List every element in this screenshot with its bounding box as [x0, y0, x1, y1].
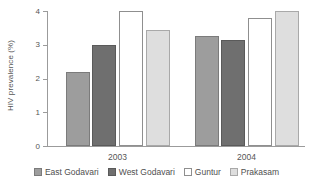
bar-west-godavari-2003 [92, 45, 116, 146]
bar-prakasam-2004 [275, 11, 299, 146]
y-axis-tick-label: 3 [36, 41, 40, 49]
legend-item-prakasam: Prakasam [230, 168, 279, 177]
y-axis-tick-label: 2 [36, 75, 40, 83]
hiv-prevalence-bar-chart: HIV prevalence (%) 01234 20032004 East G… [0, 0, 313, 191]
bar-east-godavari-2003 [66, 72, 90, 146]
x-axis-line [47, 146, 305, 147]
x-axis-label-2003: 2003 [108, 152, 127, 162]
y-axis-tick-label: 0 [36, 143, 40, 151]
legend-item-east-godavari: East Godavari [34, 168, 99, 177]
legend-swatch-icon [230, 168, 238, 176]
y-axis-title: HIV prevalence (%) [0, 0, 22, 150]
bar-guntur-2004 [248, 18, 272, 146]
y-axis-tick-label: 4 [36, 8, 40, 16]
legend-item-west-godavari: West Godavari [108, 168, 175, 177]
legend-label: West Godavari [119, 168, 175, 177]
y-axis-tick-label: 1 [36, 109, 40, 117]
legend-label: Guntur [195, 168, 221, 177]
legend-swatch-icon [184, 168, 192, 176]
x-axis-label-2004: 2004 [237, 152, 256, 162]
y-axis-tick: 0 [43, 146, 47, 147]
y-axis-tick: 1 [43, 112, 47, 113]
y-axis-title-label: HIV prevalence (%) [7, 39, 16, 110]
y-axis-tick: 4 [43, 11, 47, 12]
y-axis-line [47, 11, 48, 146]
y-axis-tick: 3 [43, 45, 47, 46]
y-axis-tick: 2 [43, 79, 47, 80]
bar-east-godavari-2004 [195, 36, 219, 146]
legend-label: East Godavari [45, 168, 99, 177]
legend-swatch-icon [108, 168, 116, 176]
legend-swatch-icon [34, 168, 42, 176]
plot-area: 01234 [47, 11, 305, 146]
chart-legend: East GodavariWest GodavariGunturPrakasam [0, 168, 313, 177]
bar-prakasam-2003 [146, 30, 170, 146]
bar-west-godavari-2004 [221, 40, 245, 146]
legend-item-guntur: Guntur [184, 168, 221, 177]
legend-label: Prakasam [241, 168, 279, 177]
bar-guntur-2003 [119, 11, 143, 146]
